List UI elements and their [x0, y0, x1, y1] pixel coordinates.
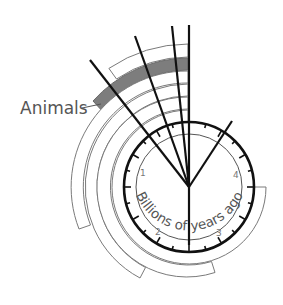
tick-mark	[239, 216, 245, 220]
tick-mark	[172, 246, 173, 250]
tick-mark	[133, 155, 139, 159]
tick-mark	[126, 170, 130, 171]
tick-mark	[133, 216, 139, 220]
ray-earth-formation	[189, 121, 232, 187]
tick-mark	[218, 131, 222, 137]
tick-mark	[172, 124, 173, 128]
tick-mark	[126, 203, 130, 204]
scale-label-3: 3	[216, 228, 222, 238]
tick-mark	[218, 237, 222, 243]
tick-mark	[248, 170, 252, 171]
tick-mark	[248, 203, 252, 204]
animals-label: Animals	[20, 98, 88, 118]
tick-mark	[205, 246, 206, 250]
scale-label-4: 4	[233, 170, 239, 180]
scale-label-1: 1	[140, 168, 146, 178]
scale-label-2: 2	[155, 227, 161, 237]
tick-mark	[239, 155, 245, 159]
tick-mark	[205, 124, 206, 128]
tick-mark	[143, 230, 146, 233]
tick-mark	[232, 141, 235, 144]
tick-mark	[157, 237, 161, 243]
tick-mark	[143, 141, 146, 144]
tick-mark	[232, 230, 235, 233]
geological-clock-diagram: 1 2 3 4 Billions of years ago Animals	[0, 0, 283, 305]
tick-mark	[157, 131, 161, 137]
